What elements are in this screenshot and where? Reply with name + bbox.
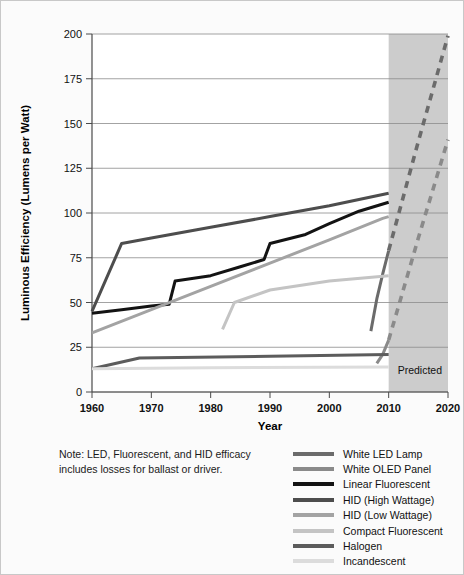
y-tick-label: 0 (76, 386, 82, 398)
chart-figure: 0255075100125150175200196019701980199020… (0, 0, 464, 575)
chart-note: Note: LED, Fluorescent, and HID efficacy… (59, 447, 287, 476)
x-tick-label: 1970 (139, 402, 163, 414)
y-tick-label: 25 (70, 341, 82, 353)
legend-item-label: Compact Fluorescent (343, 525, 443, 537)
legend-item: HID (Low Wattage) (293, 508, 461, 523)
x-tick-label: 1960 (80, 402, 104, 414)
x-axis-title: Year (258, 420, 283, 432)
y-tick-label: 150 (64, 118, 82, 130)
chart-note-line-2: includes losses for ballast or driver. (59, 462, 287, 477)
y-axis-title: Luminous Efficiency (Lumens per Watt) (19, 105, 31, 321)
legend-item-label: White LED Lamp (343, 448, 422, 460)
legend-color-swatch (293, 498, 334, 502)
x-tick-label: 1980 (198, 402, 222, 414)
legend-item-label: HID (Low Wattage) (343, 509, 432, 521)
legend-item: Halogen (293, 538, 461, 553)
chart-legend: White LED LampWhite OLED PanelLinear Flu… (293, 446, 461, 569)
legend-color-swatch (293, 467, 334, 471)
legend-item: HID (High Wattage) (293, 492, 461, 507)
y-tick-label: 125 (64, 162, 82, 174)
legend-item-label: Linear Fluorescent (343, 478, 430, 490)
legend-item: Compact Fluorescent (293, 523, 461, 538)
legend-color-swatch (293, 482, 334, 486)
legend-item-label: HID (High Wattage) (343, 494, 434, 506)
y-tick-label: 75 (70, 252, 82, 264)
legend-item: White LED Lamp (293, 446, 461, 461)
y-tick-label: 100 (64, 207, 82, 219)
x-tick-label: 2010 (376, 402, 400, 414)
x-tick-label: 2000 (317, 402, 341, 414)
x-tick-label: 2020 (436, 402, 460, 414)
legend-item: Linear Fluorescent (293, 477, 461, 492)
y-tick-label: 175 (64, 73, 82, 85)
x-tick-label: 1990 (258, 402, 282, 414)
y-tick-label: 200 (64, 28, 82, 40)
legend-item-label: Halogen (343, 540, 382, 552)
legend-color-swatch (293, 513, 334, 517)
legend-color-swatch (293, 559, 334, 563)
legend-item-label: White OLED Panel (343, 463, 431, 475)
legend-color-swatch (293, 529, 334, 533)
legend-item: White OLED Panel (293, 461, 461, 476)
y-tick-label: 50 (70, 297, 82, 309)
predicted-region-label: Predicted (398, 364, 443, 376)
chart-note-line-1: Note: LED, Fluorescent, and HID efficacy (59, 447, 287, 462)
legend-item-label: Incandescent (343, 555, 405, 567)
legend-color-swatch (293, 544, 334, 548)
legend-color-swatch (293, 452, 334, 456)
legend-item: Incandescent (293, 554, 461, 569)
series-line-7 (92, 367, 389, 369)
